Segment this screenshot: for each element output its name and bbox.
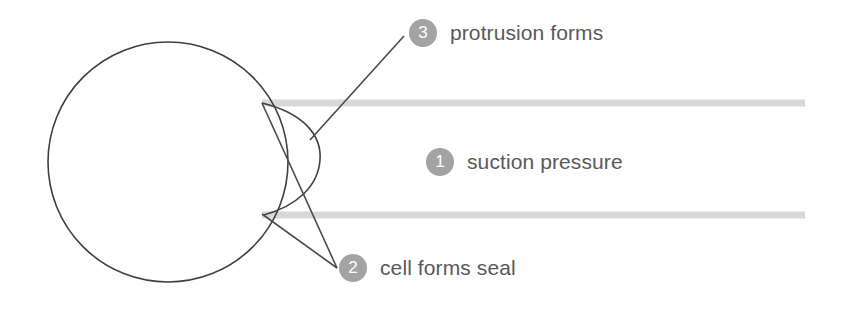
label-protrusion-forms-text: protrusion forms	[450, 21, 603, 45]
label-suction-pressure-text: suction pressure	[467, 150, 623, 174]
cell-outline	[48, 42, 288, 282]
badge-1: 1	[426, 148, 454, 176]
leader-line-seal-lower	[262, 214, 337, 268]
cell-protrusion-arc	[262, 103, 320, 215]
badge-3: 3	[409, 19, 437, 47]
label-suction-pressure: 1 suction pressure	[426, 148, 623, 176]
leader-line-seal-upper	[262, 103, 337, 268]
label-protrusion-forms: 3 protrusion forms	[409, 19, 603, 47]
diagram-canvas: 3 protrusion forms 1 suction pressure 2 …	[0, 0, 847, 318]
pipette-lower-wall	[262, 212, 805, 219]
label-cell-forms-seal-text: cell forms seal	[380, 256, 516, 280]
badge-2: 2	[339, 254, 367, 282]
label-cell-forms-seal: 2 cell forms seal	[339, 254, 516, 282]
leader-line-protrusion	[310, 36, 404, 140]
